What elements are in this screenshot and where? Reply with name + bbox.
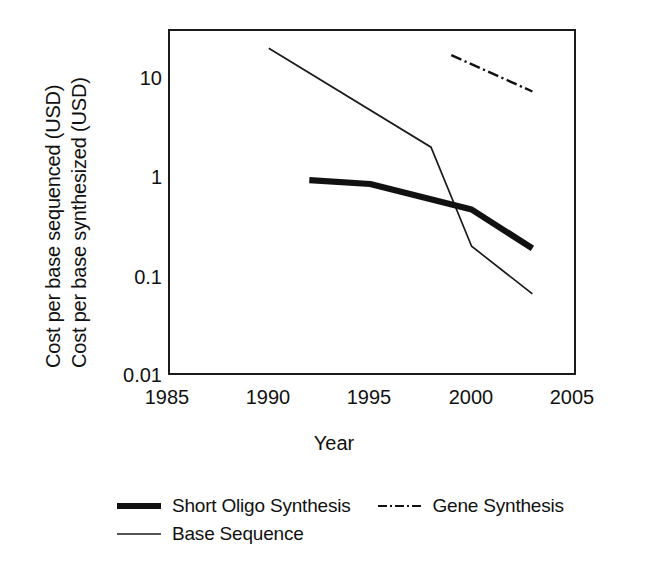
x-tick-label-2005: 2005 <box>532 387 612 407</box>
x-tick-label-1985: 1985 <box>127 387 207 407</box>
y-axis-title-line-2: Cost per base synthesized (USD) <box>68 77 91 368</box>
y-tick-0.1: 0.1 <box>84 267 162 287</box>
y-tick-0.01: 0.01 <box>84 365 162 385</box>
legend-item-gene-synthesis[interactable]: Gene Synthesis <box>377 495 564 517</box>
x-tick-label-1990: 1990 <box>228 387 308 407</box>
legend-item-short-oligo-synthesis[interactable]: Short Oligo Synthesis <box>116 495 351 517</box>
legend-label-gene-synthesis: Gene Synthesis <box>433 495 564 517</box>
y-tick-label-0-1: 0.1 <box>134 267 162 287</box>
y-tick-1: 1 <box>84 167 162 187</box>
x-axis-title: Year <box>0 432 668 455</box>
legend-row-2: Base Sequence <box>116 520 656 548</box>
y-tick-label-0-01: 0.01 <box>123 365 162 385</box>
legend-item-base-sequence[interactable]: Base Sequence <box>116 523 304 545</box>
legend-row-1: Short Oligo Synthesis Gene Synthesis <box>116 492 656 520</box>
dash-dot-line-swatch <box>377 499 423 513</box>
legend-label-base-sequence: Base Sequence <box>172 523 304 545</box>
chart-legend: Short Oligo Synthesis Gene Synthesis <box>116 492 656 548</box>
y-tick-label-1: 1 <box>151 167 162 187</box>
thin-line-swatch <box>116 527 162 541</box>
legend-label-short-oligo-synthesis: Short Oligo Synthesis <box>172 495 351 517</box>
thick-line-swatch <box>116 499 162 513</box>
x-tick-label-2000: 2000 <box>431 387 511 407</box>
plot-area <box>168 29 576 375</box>
y-tick-label-10: 10 <box>140 68 162 88</box>
y-axis-title-line-1: Cost per base sequenced (USD) <box>42 85 65 368</box>
chart-figure: Cost per base sequenced (USD) Cost per b… <box>0 0 668 570</box>
x-tick-label-1995: 1995 <box>329 387 409 407</box>
y-tick-10: 10 <box>84 68 162 88</box>
